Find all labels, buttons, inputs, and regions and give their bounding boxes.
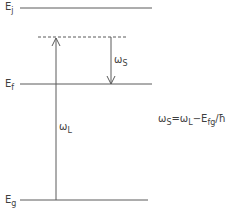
equation: ωS=ωL−Efg/ħ — [158, 114, 226, 124]
energy-level-diagram: Ej Ef Eg ωL ωS ωS=ωL−Efg/ħ — [0, 0, 237, 216]
label-eg: Eg — [5, 195, 16, 205]
label-omega-l-sub: L — [67, 126, 71, 135]
label-omega-l: ωL — [59, 122, 72, 132]
label-omega-s-sub: S — [122, 59, 127, 68]
eq-minus: − — [193, 113, 201, 124]
label-omega-s: ωS — [114, 55, 127, 65]
label-ej-sub: j — [11, 6, 13, 15]
diagram-canvas — [0, 0, 237, 216]
label-eg-sub: g — [11, 199, 16, 208]
label-ef-sub: f — [11, 83, 14, 92]
label-ej: Ej — [5, 2, 14, 12]
eq-hbar: ħ — [219, 113, 226, 124]
label-ef: Ef — [5, 79, 14, 89]
eq-equals: = — [171, 113, 179, 124]
eq-rhs1-main: ω — [180, 113, 188, 124]
